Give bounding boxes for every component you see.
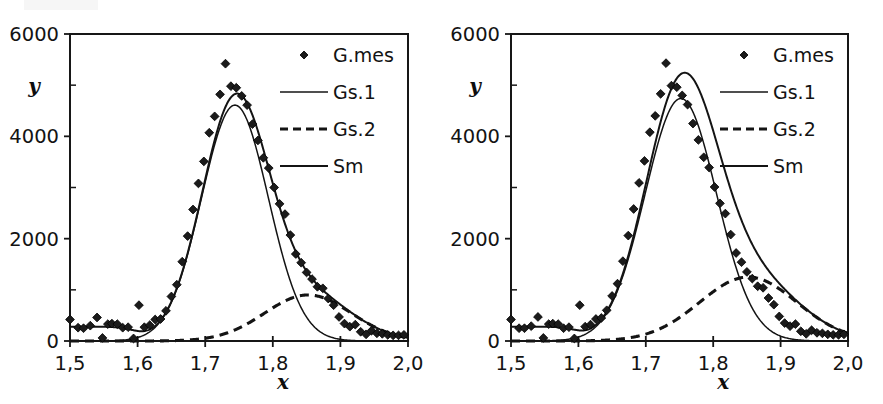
y-tick-label: 0	[488, 330, 500, 353]
data-point-marker	[221, 59, 230, 68]
x-tick-label: 1,6	[563, 352, 594, 375]
legend-marker-gmes-icon	[300, 51, 308, 59]
curve-gs2	[70, 295, 408, 341]
legend-label: Gs.2	[333, 118, 376, 140]
chart-panel-right: 02000400060001,51,61,71,81,92,0yxG.mesGs…	[441, 0, 883, 404]
data-point-marker	[534, 313, 543, 322]
data-point-marker	[748, 274, 757, 283]
chart-right-svg: 02000400060001,51,61,71,81,92,0yxG.mesGs…	[441, 0, 883, 404]
x-tick-label: 1,5	[54, 352, 85, 375]
data-point-marker	[575, 301, 584, 310]
y-tick-label: 0	[47, 330, 59, 353]
legend: G.mesGs.1Gs.2Sm	[280, 44, 394, 177]
data-point-marker	[629, 205, 638, 214]
data-point-marker	[624, 231, 633, 240]
data-point-marker	[775, 312, 784, 321]
y-tick-label: 6000	[450, 23, 500, 46]
data-point-marker	[764, 294, 773, 303]
x-tick-label: 1,6	[122, 352, 153, 375]
data-point-marker	[640, 156, 649, 165]
y-tick-label: 4000	[450, 125, 500, 148]
legend-label: Gs.1	[333, 81, 376, 103]
legend-label: Gs.1	[773, 81, 816, 103]
data-point-marker	[216, 90, 225, 99]
chart-right-content: 02000400060001,51,61,71,81,92,0yxG.mesGs…	[450, 23, 863, 394]
data-point-marker	[769, 300, 778, 309]
data-point-marker	[264, 164, 273, 173]
two-panel-figure: 02000400060001,51,61,71,81,92,0yxG.mesGs…	[0, 0, 883, 404]
x-tick-label: 2,0	[392, 352, 423, 375]
x-tick-label: 1,7	[190, 352, 221, 375]
x-axis-title: x	[716, 370, 730, 394]
y-tick-label: 6000	[9, 23, 59, 46]
data-point-marker	[743, 268, 752, 277]
x-axis-title: x	[276, 370, 290, 394]
data-point-marker	[635, 178, 644, 187]
data-point-marker	[662, 59, 671, 68]
y-tick-label: 2000	[450, 228, 500, 251]
chart-left-svg: 02000400060001,51,61,71,81,92,0yxG.mesGs…	[0, 0, 441, 404]
y-axis-title: y	[468, 74, 482, 98]
x-tick-label: 1,7	[630, 352, 661, 375]
curve-sm	[511, 73, 848, 334]
x-tick-label: 1,9	[325, 352, 356, 375]
x-tick-label: 1,5	[495, 352, 526, 375]
data-point-marker	[737, 258, 746, 267]
data-point-marker	[645, 128, 654, 137]
data-point-marker	[705, 163, 714, 172]
data-point-marker	[716, 199, 725, 208]
y-tick-label: 2000	[9, 228, 59, 251]
data-point-marker	[270, 183, 279, 192]
chart-panel-left: 02000400060001,51,61,71,81,92,0yxG.mesGs…	[0, 0, 441, 404]
y-axis-title: y	[27, 74, 41, 98]
data-point-marker	[275, 199, 284, 208]
data-point-marker	[194, 179, 203, 188]
legend-label: Sm	[773, 155, 804, 177]
data-point-marker	[507, 315, 516, 324]
curve-gs1	[70, 105, 408, 341]
legend-label: Gs.2	[773, 118, 816, 140]
data-point-marker	[210, 112, 219, 121]
data-point-marker	[335, 313, 344, 322]
data-point-marker	[93, 313, 102, 322]
x-tick-label: 2,0	[832, 352, 863, 375]
chart-left-content: 02000400060001,51,61,71,81,92,0yxG.mesGs…	[9, 23, 423, 394]
legend-label: G.mes	[333, 44, 394, 66]
legend-label: G.mes	[773, 44, 834, 66]
data-point-marker	[189, 205, 198, 214]
data-point-marker	[66, 315, 75, 324]
data-point-marker	[656, 89, 665, 98]
data-point-marker	[710, 183, 719, 192]
data-point-marker	[651, 111, 660, 120]
data-point-marker	[199, 157, 208, 166]
legend-label: Sm	[333, 155, 364, 177]
legend-marker-gmes-icon	[740, 51, 748, 59]
data-point-marker	[205, 128, 214, 137]
data-point-marker	[135, 301, 144, 310]
y-tick-label: 4000	[9, 125, 59, 148]
x-tick-label: 1,9	[765, 352, 796, 375]
legend: G.mesGs.1Gs.2Sm	[720, 44, 834, 177]
